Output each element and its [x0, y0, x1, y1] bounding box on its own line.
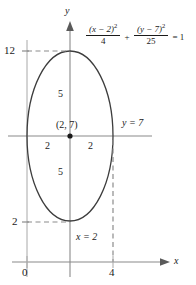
vertical-line-label: x = 2	[76, 232, 97, 242]
equation-term-2-numerator: (y − 7)2	[134, 24, 168, 36]
equation-term-1-numerator: (x − 2)2	[86, 24, 120, 36]
y-tick-label-2: 2	[12, 216, 18, 227]
y-tick-label-12: 12	[4, 45, 15, 56]
semi-major-upper-label: 5	[58, 89, 63, 99]
semi-minor-left-label: 2	[45, 141, 50, 151]
y-axis-arrowhead	[66, 21, 74, 31]
semi-major-lower-label: 5	[58, 167, 63, 177]
x-axis-label: x	[174, 256, 178, 266]
center-coordinate-label: (2, 7)	[56, 120, 78, 130]
semi-minor-right-label: 2	[88, 141, 93, 151]
x-tick-label-0: 0	[22, 267, 28, 278]
center-point-dot	[67, 133, 72, 138]
y-axis-label: y	[65, 6, 69, 16]
horizontal-line-label: y = 7	[122, 118, 143, 128]
equation-term-1-denominator: 4	[86, 36, 120, 47]
equation-term-1-exponent: 2	[114, 22, 117, 29]
equation-equals-one: = 1	[170, 32, 186, 42]
equation-term-1: (x − 2)2 4	[86, 24, 120, 48]
equation-term-1-numerator-text: (x − 2)	[89, 24, 114, 34]
equation-term-2-denominator: 25	[134, 36, 168, 47]
equation-plus-operator: +	[123, 32, 132, 42]
equation-term-2: (y − 7)2 25	[134, 24, 168, 48]
ellipse-figure: (x − 2)2 4 + (y − 7)2 25 = 1 y x 12 2 0 …	[0, 0, 196, 285]
ellipse-equation: (x − 2)2 4 + (y − 7)2 25 = 1	[86, 24, 186, 48]
x-tick-label-4: 4	[109, 267, 115, 278]
x-axis-arrowhead	[160, 258, 170, 266]
equation-term-2-exponent: 2	[162, 22, 165, 29]
equation-term-2-numerator-text: (y − 7)	[137, 24, 162, 34]
